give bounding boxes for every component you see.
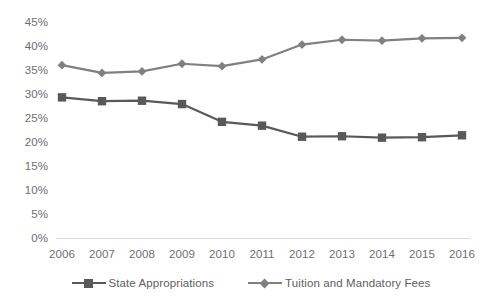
legend-item-state-appropriations[interactable]: State Appropriations <box>72 277 215 289</box>
data-point-square <box>138 97 146 105</box>
data-point-square <box>58 93 66 101</box>
data-point-square <box>338 132 346 140</box>
legend-label-tuition-and-mandatory-fees: Tuition and Mandatory Fees <box>285 277 430 289</box>
data-point-square <box>258 121 266 129</box>
plot-area <box>0 0 502 299</box>
data-point-square <box>298 133 306 141</box>
data-point-diamond <box>298 40 307 49</box>
legend-square-icon <box>84 279 93 288</box>
line-chart: 45%40%35%30%25%20%15%10%5%0% 20062007200… <box>0 0 502 299</box>
legend-item-tuition-and-mandatory-fees[interactable]: Tuition and Mandatory Fees <box>248 277 430 289</box>
data-point-square <box>218 118 226 126</box>
series-tuition-and-mandatory-fees <box>58 33 467 77</box>
data-point-diamond <box>138 67 147 76</box>
legend-diamond-marker-icon <box>248 277 282 289</box>
data-point-square <box>458 131 466 139</box>
data-point-diamond <box>98 68 107 77</box>
data-point-diamond <box>338 35 347 44</box>
data-point-square <box>98 97 106 105</box>
series-line <box>62 97 462 137</box>
legend-square-marker-icon <box>72 277 106 289</box>
legend-diamond-icon <box>259 278 269 288</box>
legend-label-state-appropriations: State Appropriations <box>109 277 215 289</box>
chart-legend: State Appropriations Tuition and Mandato… <box>0 272 502 294</box>
data-point-diamond <box>58 61 67 70</box>
data-point-square <box>178 100 186 108</box>
data-point-diamond <box>458 33 467 42</box>
data-point-square <box>418 133 426 141</box>
data-point-diamond <box>258 55 267 64</box>
data-point-diamond <box>378 36 387 45</box>
data-point-diamond <box>418 34 427 43</box>
data-point-square <box>378 133 386 141</box>
data-point-diamond <box>178 59 187 68</box>
series-state-appropriations <box>58 93 466 142</box>
data-point-diamond <box>218 62 227 71</box>
